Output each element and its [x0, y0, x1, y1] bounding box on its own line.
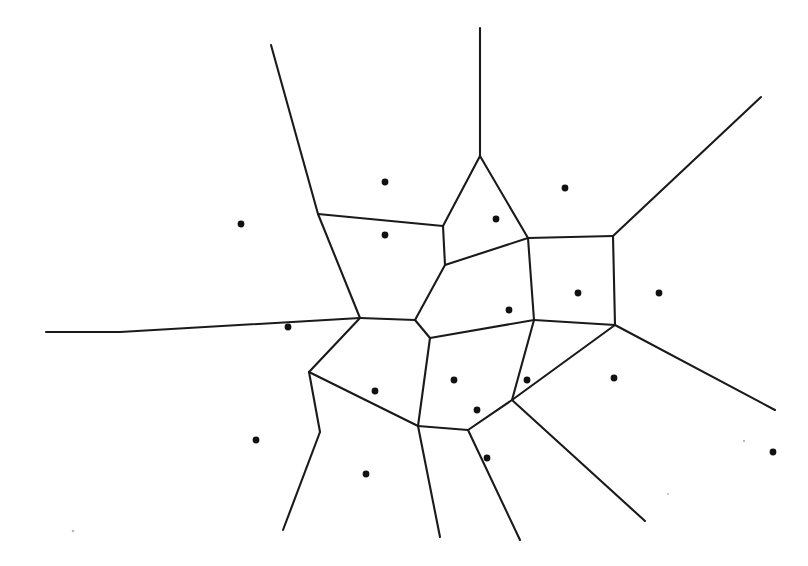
scan-speck	[743, 440, 745, 442]
seed-point	[562, 185, 569, 192]
seed-point	[382, 179, 389, 186]
scan-speck	[72, 530, 75, 533]
voronoi-canvas	[0, 0, 808, 566]
seed-point	[285, 324, 292, 331]
seed-point	[575, 290, 582, 297]
seed-point	[474, 407, 481, 414]
seed-point	[382, 232, 389, 239]
seed-point	[372, 388, 379, 395]
scan-speck	[667, 493, 669, 495]
seed-point	[253, 437, 260, 444]
seed-point	[363, 471, 370, 478]
voronoi-diagram	[0, 0, 808, 566]
seed-point	[611, 375, 618, 382]
seed-point	[524, 377, 531, 384]
seed-point	[506, 307, 513, 314]
diagram-background	[0, 0, 808, 566]
seed-point	[484, 455, 491, 462]
seed-point	[770, 449, 777, 456]
seed-point	[656, 290, 663, 297]
seed-point	[493, 216, 500, 223]
seed-point	[451, 377, 458, 384]
seed-point	[238, 221, 245, 228]
